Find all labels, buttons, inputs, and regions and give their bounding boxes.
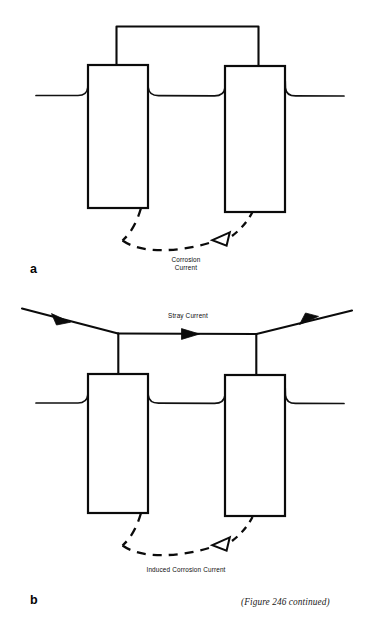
ground-line-a-right: [285, 81, 344, 97]
figure-root: Corrosion Current a Stray Current Induce…: [0, 0, 379, 631]
corrosion-current-label-line2: Current: [171, 264, 200, 272]
induced-corrosion-current-label: Induced Corrosion Current: [146, 566, 225, 574]
corrosion-current-arrowhead-a: [212, 232, 230, 245]
structure-b-left: [88, 374, 148, 513]
stray-current-arrowhead-middle-b: [182, 329, 200, 340]
panel-letter-a: a: [30, 262, 37, 276]
panel-b-drawing: [22, 309, 352, 556]
corrosion-current-label: Corrosion Current: [171, 256, 200, 272]
structure-a-right: [225, 66, 285, 212]
stray-current-label: Stray Current: [168, 312, 208, 320]
ground-line-b-right: [285, 388, 344, 404]
corrosion-current-label-line1: Corrosion: [171, 256, 200, 264]
induced-corrosion-current-arrowhead-b: [212, 537, 230, 550]
panel-a-drawing: [36, 27, 344, 251]
bond-wire-a: [117, 27, 259, 68]
ground-line-a-middle: [148, 80, 225, 96]
stray-current-arrowhead-left-b: [52, 314, 71, 325]
induced-corrosion-current-path-b3: [232, 517, 253, 541]
corrosion-current-path-a2: [123, 241, 210, 251]
ground-line-b-left: [36, 388, 88, 403]
figure-caption: (Figure 246 continued): [241, 597, 330, 607]
stray-current-line-b-left: [22, 309, 118, 334]
induced-corrosion-current-path-b: [123, 513, 142, 546]
corrosion-current-path-a: [123, 208, 142, 241]
corrosion-current-path-a3: [232, 212, 253, 236]
ground-line-b-middle: [148, 388, 225, 403]
structure-b-right: [225, 375, 285, 516]
panel-letter-b: b: [30, 593, 38, 607]
structure-a-left: [88, 65, 148, 208]
ground-line-a-left: [36, 80, 88, 96]
induced-corrosion-current-path-b2: [123, 546, 210, 556]
